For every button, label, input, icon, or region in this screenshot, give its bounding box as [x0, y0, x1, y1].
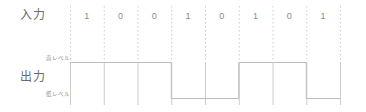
gridline-group	[71, 6, 341, 105]
timing-diagram: 入力 出力 高レベル 低レベル 10010101	[0, 0, 366, 112]
waveform-plot	[0, 0, 366, 112]
